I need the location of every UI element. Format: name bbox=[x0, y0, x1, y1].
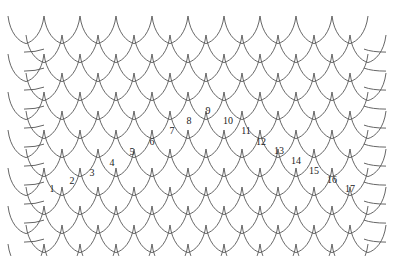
scale-number-label: 5 bbox=[130, 147, 135, 157]
scale-number-label: 14 bbox=[291, 156, 301, 166]
scale-number-label: 8 bbox=[187, 116, 192, 126]
scale-number-label: 2 bbox=[70, 176, 75, 186]
scale-number-label: 4 bbox=[110, 158, 115, 168]
scale-number-label: 15 bbox=[309, 166, 319, 176]
scale-number-label: 17 bbox=[345, 184, 355, 194]
scale-number-label: 11 bbox=[241, 126, 251, 136]
scale-number-label: 9 bbox=[206, 106, 211, 116]
scale-number-label: 3 bbox=[90, 168, 95, 178]
scale-number-label: 1 bbox=[50, 184, 55, 194]
scale-number-label: 13 bbox=[274, 146, 284, 156]
scale-number-label: 6 bbox=[150, 137, 155, 147]
scale-pattern bbox=[0, 0, 404, 256]
scale-pattern-diagram: 1234567891011121314151617 bbox=[0, 0, 404, 256]
scale-number-label: 16 bbox=[327, 175, 337, 185]
scale-number-label: 10 bbox=[223, 116, 233, 126]
scale-number-label: 7 bbox=[170, 126, 175, 136]
scale-number-label: 12 bbox=[256, 137, 266, 147]
